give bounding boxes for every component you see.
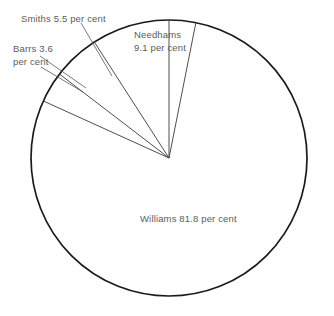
leader-line-smiths xyxy=(81,23,112,76)
label-needhams-line2: 9.1 per cent xyxy=(134,42,186,53)
label-barrs-line2: per cent xyxy=(13,56,49,67)
label-needhams-line1: Needhams xyxy=(134,29,181,40)
pie-chart-canvas: Smiths 5.5 per cent Barrs 3.6 per cent N… xyxy=(0,0,334,316)
label-smiths: Smiths 5.5 per cent xyxy=(21,13,106,24)
label-williams: Williams 81.8 per cent xyxy=(140,213,237,224)
label-barrs-line1: Barrs 3.6 xyxy=(13,43,53,54)
pie-chart: Smiths 5.5 per cent Barrs 3.6 per cent N… xyxy=(0,0,334,316)
